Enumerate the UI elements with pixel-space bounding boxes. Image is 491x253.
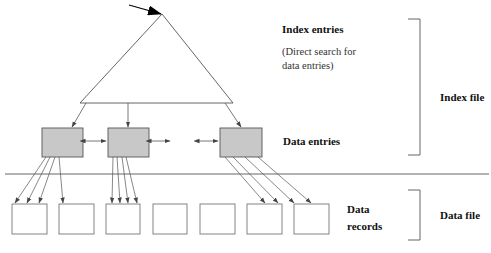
data-record-4: [153, 204, 187, 234]
data-entry-page-1: [42, 128, 83, 157]
index-entries-label: Index entries: [282, 23, 344, 35]
data-entries-label: Data entries: [283, 135, 341, 147]
index-to-leaf-pointers: [72, 103, 241, 127]
data-records-label-line1: Data: [347, 203, 370, 215]
record-pointers: [15, 157, 311, 203]
index-note-line1: (Direct search for: [282, 46, 357, 58]
data-file-label: Data file: [440, 209, 480, 221]
data-records: [12, 204, 329, 234]
root-entry-arrow: [129, 5, 161, 14]
data-file-bracket: [408, 190, 420, 240]
data-record-7: [294, 204, 329, 234]
data-entry-page-3: [220, 128, 262, 157]
data-record-3: [106, 204, 140, 234]
data-records-label-line2: records: [347, 220, 383, 232]
data-record-2: [59, 204, 94, 234]
data-entry-page-2: [108, 128, 149, 157]
index-file-label: Index file: [440, 91, 484, 103]
data-record-5: [200, 204, 235, 234]
index-file-bracket: [408, 19, 420, 155]
b-tree-index-diagram: Index entries (Direct search for data en…: [0, 0, 491, 253]
data-record-1: [12, 204, 47, 234]
data-record-6: [247, 204, 282, 234]
index-entries-triangle: [80, 14, 233, 103]
data-entry-pages: [42, 128, 262, 157]
index-note-line2: data entries): [282, 60, 334, 72]
